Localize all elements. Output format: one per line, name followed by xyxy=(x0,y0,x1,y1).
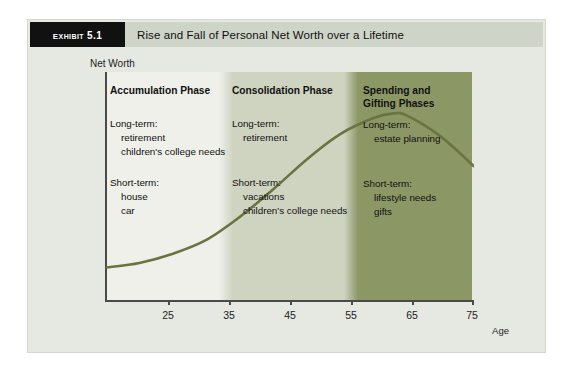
phase-heading-line2: Gifting Phases xyxy=(363,97,471,110)
long-term-item-2: children's college needs xyxy=(110,145,230,159)
short-term-item-2: car xyxy=(110,204,230,218)
phase-heading-line1: Spending and xyxy=(363,84,471,97)
short-term-label: Short-term: xyxy=(363,177,471,191)
x-tick-label-75: 75 xyxy=(452,309,492,321)
exhibit-number-tab: Exhibit 5.1 xyxy=(30,22,125,47)
phase-heading-line1: Consolidation Phase xyxy=(232,84,358,97)
x-tick-label-65: 65 xyxy=(392,309,432,321)
x-axis-title: Age xyxy=(492,325,509,336)
short-term-label: Short-term: xyxy=(110,176,230,190)
x-tick-label-25: 25 xyxy=(148,309,188,321)
x-tick-label-35: 35 xyxy=(209,309,249,321)
exhibit-number-label: Exhibit 5.1 xyxy=(53,28,102,42)
long-term-label: Long-term: xyxy=(363,118,471,132)
phase-column-accumulation: Accumulation Phase Long-term: retirement… xyxy=(110,84,230,218)
x-tick-label-55: 55 xyxy=(331,309,371,321)
short-term-item-1: house xyxy=(110,190,230,204)
long-term-item-1: estate planning xyxy=(363,132,471,146)
x-tick-label-45: 45 xyxy=(270,309,310,321)
long-term-label: Long-term: xyxy=(110,117,230,131)
phase-heading-line1: Accumulation Phase xyxy=(110,84,230,97)
short-term-item-1: lifestyle needs xyxy=(363,191,471,205)
long-term-item-1: retirement xyxy=(110,131,230,145)
short-term-label: Short-term: xyxy=(232,176,358,190)
y-axis-title: Net Worth xyxy=(90,58,135,69)
phase-column-spending-gifting: Spending and Gifting Phases Long-term: e… xyxy=(363,84,471,219)
long-term-label: Long-term: xyxy=(232,117,358,131)
exhibit-figure: Exhibit 5.1 Rise and Fall of Personal Ne… xyxy=(0,0,572,376)
short-term-item-2: children's college needs xyxy=(232,204,358,218)
phase-column-consolidation: Consolidation Phase Long-term: retiremen… xyxy=(232,84,358,218)
long-term-item-1: retirement xyxy=(232,131,358,145)
short-term-item-1: vacations xyxy=(232,190,358,204)
short-term-item-2: gifts xyxy=(363,205,471,219)
exhibit-title: Rise and Fall of Personal Net Worth over… xyxy=(137,22,404,47)
